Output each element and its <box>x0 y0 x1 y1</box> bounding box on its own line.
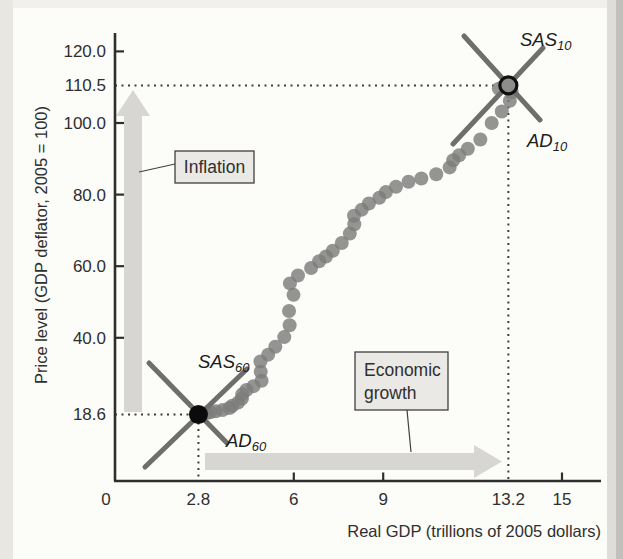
year-dot <box>402 175 416 189</box>
y-axis-title: Price level (GDP deflator, 2005 = 100) <box>32 106 50 384</box>
x-value-label: 13.2 <box>492 490 525 509</box>
y-tick-label: 100.0 <box>63 114 106 133</box>
inflation-callout-label: Inflation <box>184 157 245 177</box>
y-tick-label: 80.0 <box>73 186 106 205</box>
economic-growth-callout-line2: growth <box>364 383 417 403</box>
year-dot <box>389 180 403 194</box>
equilibrium-1960-dot <box>189 405 208 424</box>
economic-growth-callout-line1: Economic <box>364 360 441 380</box>
y-tick-label: 120.0 <box>63 42 106 61</box>
year-dot <box>429 167 443 181</box>
y-value-label: 110.5 <box>65 76 106 95</box>
x-tick-label: 6 <box>289 490 298 509</box>
year-dot <box>473 132 487 146</box>
scan-edge-left <box>0 0 13 559</box>
scan-edge-top <box>0 0 623 8</box>
scan-edge-right <box>616 0 623 559</box>
year-dot <box>414 171 428 185</box>
y-tick-label: 60.0 <box>73 257 106 276</box>
x-tick-label: 9 <box>378 490 387 509</box>
y-tick-label: 40.0 <box>73 329 106 348</box>
year-dot <box>283 318 297 332</box>
x-axis-title: Real GDP (trillions of 2005 dollars) <box>347 522 601 540</box>
figure: 120.0100.080.060.040.0110.518.6 069152.8… <box>0 0 623 559</box>
x-value-label: 2.8 <box>187 490 211 509</box>
year-dot <box>282 304 296 318</box>
year-dot <box>291 269 305 283</box>
x-tick-label: 0 <box>101 490 110 509</box>
scan-edge-right-light <box>607 0 616 559</box>
y-value-label: 18.6 <box>73 405 106 424</box>
year-dot <box>461 142 475 156</box>
asad-chart: 120.0100.080.060.040.0110.518.6 069152.8… <box>0 0 623 559</box>
x-tick-label: 15 <box>553 490 572 509</box>
equilibrium-2010-dot <box>500 77 517 94</box>
year-dot <box>485 116 499 130</box>
